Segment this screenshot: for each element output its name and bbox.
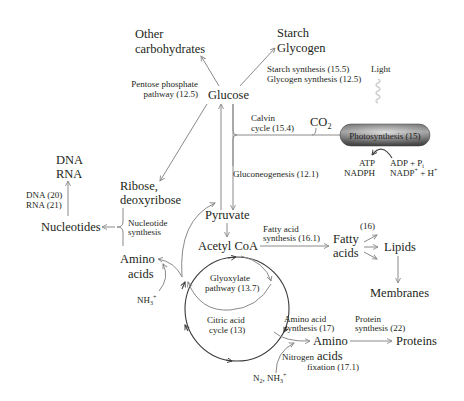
svg-text:pathway (12.5): pathway (12.5) [144,89,198,99]
node-pyruvate: Pyruvate [205,208,250,222]
label-calvin-cycle: Calvin cycle (15.4) [251,113,294,133]
svg-text:cycle (15.4): cycle (15.4) [251,123,294,133]
svg-text:DNA: DNA [56,153,83,167]
node-dna-rna: DNA RNA [56,153,83,181]
node-glucose: Glucose [208,88,249,102]
svg-text:synthesis (22): synthesis (22) [355,323,405,333]
node-ribose: Ribose, deoxyribose [120,179,182,207]
svg-text:NADP+ + H+: NADP+ + H+ [390,167,438,178]
node-co2: CO2 [310,115,331,131]
svg-text:Starch: Starch [277,26,310,40]
label-n2-nh3: N2, NH3+ [253,372,287,384]
label-lipid-ref: (16) [360,221,375,231]
svg-text:Calvin: Calvin [251,113,275,123]
svg-text:Pentose phosphate: Pentose phosphate [131,79,198,89]
node-fatty-acids: Fatty acids [333,232,359,260]
label-light: Light [371,64,391,74]
svg-text:Ribose,: Ribose, [120,179,158,193]
arrow-nh3-to-amino [159,264,166,291]
label-nh3: NH3+ [137,294,157,306]
node-proteins: Proteins [396,334,437,348]
svg-text:RNA (21): RNA (21) [26,200,62,210]
metabolic-pathways-diagram: Other carbohydrates Starch Glycogen Gluc… [0,0,464,401]
svg-text:fixation (17.1): fixation (17.1) [307,362,359,372]
svg-text:Glycogen synthesis (12.5): Glycogen synthesis (12.5) [267,74,361,84]
svg-text:Photosynthesis (15): Photosynthesis (15) [349,131,420,141]
label-glyoxylate: Glyoxylate pathway (13.7) [205,273,259,293]
arrow-glucose-to-other-carbs [201,56,219,86]
svg-text:pathway (13.7): pathway (13.7) [205,283,259,293]
node-acetyl-coa: Acetyl CoA [198,239,258,253]
svg-text:synthesis (17): synthesis (17) [284,323,334,333]
node-amino-acids-right: Amino acids [313,334,348,363]
label-gluconeogenesis: Gluconeogenesis (12.1) [233,169,318,179]
arrow-glucose-to-ribose [160,104,207,181]
label-dna-rna-refs: DNA (20) RNA (21) [26,190,62,210]
light-wave-icon [376,79,380,103]
svg-text:Amino: Amino [313,334,348,348]
node-lipids: Lipids [384,240,416,254]
photosynthesis-pill: Photosynthesis (15) [340,124,430,146]
svg-text:acids: acids [317,349,343,363]
svg-text:Glyoxylate: Glyoxylate [210,273,250,283]
svg-text:Glycogen: Glycogen [277,41,326,55]
arrow-adp-to-atp [372,149,392,158]
svg-text:Nitrogen: Nitrogen [282,352,314,362]
node-membranes: Membranes [370,286,429,300]
label-citric-acid-cycle: Citric acid cycle (13) [207,315,245,335]
arrow-fatty-to-lipids-3 [364,252,377,259]
label-protein-synthesis: Protein synthesis (22) [355,314,405,333]
node-amino-acids-left: Amino acids [120,252,155,281]
node-other-carbohydrates: Other carbohydrates [135,27,205,56]
svg-text:synthesis (16.1): synthesis (16.1) [263,233,320,243]
arrow-cycle-to-amino-acids [158,259,182,277]
nucleotide-bracket [117,208,123,246]
label-atp-nadph: ATP NADPH [344,158,376,178]
svg-text:Other: Other [135,27,164,41]
arrow-fatty-to-lipids-1 [364,235,377,242]
svg-text:deoxyribose: deoxyribose [120,193,182,207]
svg-text:carbohydrates: carbohydrates [135,42,205,56]
label-pentose-phosphate: Pentose phosphate pathway (12.5) [131,79,198,99]
svg-text:DNA (20): DNA (20) [26,190,62,200]
svg-text:Amino: Amino [120,252,155,266]
svg-text:ATP: ATP [359,158,375,168]
label-starch-synthesis: Starch synthesis (15.5) Glycogen synthes… [267,64,361,84]
svg-text:Starch synthesis (15.5): Starch synthesis (15.5) [267,64,349,74]
label-nucleotide-synthesis: Nucleotide synthesis [128,218,168,237]
svg-text:Citric acid: Citric acid [207,315,245,325]
node-nucleotides: Nucleotides [41,220,101,234]
svg-text:cycle (13): cycle (13) [209,325,245,335]
calvin-bracket [233,104,330,166]
svg-text:RNA: RNA [56,167,82,181]
label-adp-nadp: ADP + Pi NADP+ + H+ [390,158,438,178]
label-amino-acid-synthesis: Amino acid synthesis (17) [284,314,334,333]
svg-text:Fatty: Fatty [333,232,359,246]
svg-text:NADPH: NADPH [344,168,376,178]
svg-text:synthesis: synthesis [128,227,162,237]
svg-text:acids: acids [128,267,154,281]
label-fatty-acid-synthesis: Fatty acid synthesis (16.1) [263,224,320,243]
svg-text:acids: acids [333,246,359,260]
node-starch-glycogen: Starch Glycogen [277,26,326,55]
